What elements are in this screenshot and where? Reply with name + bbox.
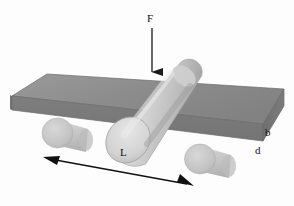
figure-canvas [0,0,294,206]
depth-label: d [255,145,261,156]
beam-left-end-face [10,95,12,110]
bending-test-figure: F L b d [0,0,294,206]
right-support-roller [185,144,237,178]
span-arrow-left-head [43,156,60,165]
width-label: b [265,127,271,138]
force-label: F [147,13,153,24]
left-support-roller [42,118,93,152]
span-label: L [120,147,127,158]
